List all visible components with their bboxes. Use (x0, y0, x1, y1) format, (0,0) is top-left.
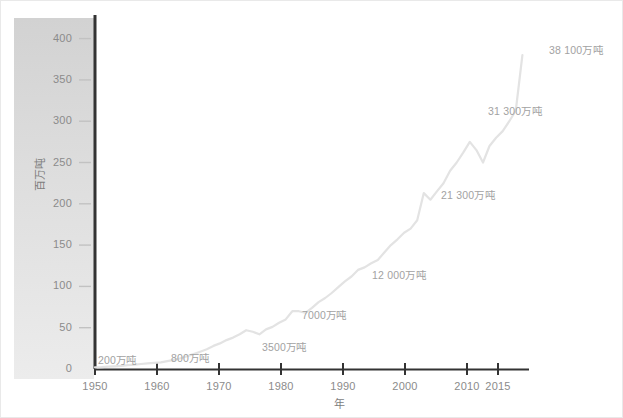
x-tick-label-1990: 1990 (317, 380, 369, 392)
y-tick-label-200: 200 (27, 197, 72, 209)
x-axis-title: 年 (334, 395, 345, 411)
chart-figure: 400 350 300 250 200 150 100 50 0 1950 19… (0, 0, 623, 418)
y-tick-label-400: 400 (27, 32, 72, 44)
x-tick-label-1970: 1970 (193, 380, 245, 392)
x-tick-label-2015: 2015 (472, 380, 524, 392)
x-tick-label-1980: 1980 (255, 380, 307, 392)
annotation-1980: 7000万吨 (302, 307, 347, 322)
y-tick-label-0: 0 (27, 362, 72, 374)
y-tick-label-100: 100 (27, 279, 72, 291)
y-tick-label-150: 150 (27, 238, 72, 250)
y-tick-label-50: 50 (27, 321, 72, 333)
y-tick-label-350: 350 (27, 73, 72, 85)
x-tick-label-1950: 1950 (69, 380, 121, 392)
annotation-1970: 3500万吨 (262, 339, 307, 354)
annotation-2015: 38 100万吨 (549, 42, 603, 57)
y-tick-label-300: 300 (27, 114, 72, 126)
x-tick-label-1960: 1960 (131, 380, 183, 392)
plot-canvas (1, 1, 623, 418)
x-tick-label-2000: 2000 (379, 380, 431, 392)
y-axis-title: 百万吨 (31, 158, 47, 191)
annotation-1990: 12 000万吨 (372, 267, 426, 282)
annotation-1960: 800万吨 (171, 350, 210, 365)
annotation-2000: 21 300万吨 (441, 187, 495, 202)
annotation-2010: 31 300万吨 (488, 103, 542, 118)
annotation-1950: 200万吨 (98, 352, 137, 367)
